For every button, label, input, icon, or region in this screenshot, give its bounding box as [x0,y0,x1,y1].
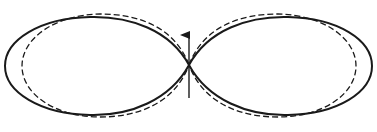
dashed-left-lobe [22,14,189,117]
dashed-right-lobe [189,14,356,117]
diagram-canvas [0,0,377,132]
radiation-pattern-figure [0,0,377,132]
